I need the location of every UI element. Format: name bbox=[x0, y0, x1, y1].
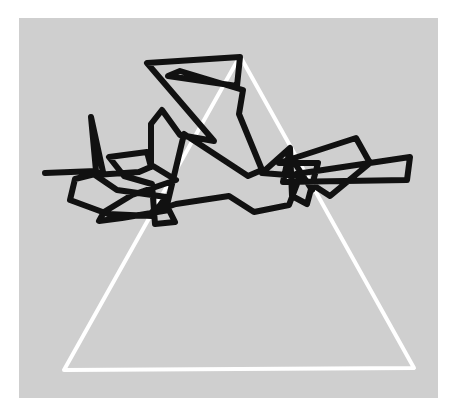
figure-container: Polyline path over triangle outline bbox=[0, 0, 456, 416]
figure-canvas bbox=[0, 0, 456, 416]
